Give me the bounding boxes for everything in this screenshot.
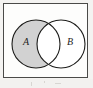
universal-set-box bbox=[3, 3, 88, 78]
scan-artifact-mark bbox=[44, 81, 45, 83]
venn-diagram-figure: A B bbox=[0, 0, 93, 88]
venn-canvas bbox=[4, 4, 88, 78]
set-b-label: B bbox=[67, 37, 73, 47]
scan-artifact-strip bbox=[0, 79, 93, 88]
shaded-region-a-minus-b bbox=[4, 4, 88, 78]
scan-artifact-mark bbox=[31, 82, 32, 86]
set-a-label: A bbox=[23, 37, 29, 47]
scan-artifact-mark bbox=[55, 83, 61, 84]
